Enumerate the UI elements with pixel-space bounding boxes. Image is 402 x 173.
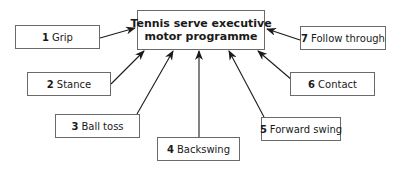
step-number: 4 [167, 144, 174, 155]
arrow-contact [258, 51, 292, 80]
step-label: Forward swing [270, 124, 342, 135]
step-contact: 6 Contact [290, 72, 375, 96]
central-title-line2: motor programme [144, 30, 257, 43]
step-number: 1 [42, 32, 49, 43]
arrow-forward-swing [229, 51, 264, 117]
step-grip: 1 Grip [15, 25, 100, 49]
step-label: Backswing [177, 144, 230, 155]
step-number: 3 [71, 121, 78, 132]
central-node: Tennis serve executive motor programme [137, 10, 265, 50]
central-title-line1: Tennis serve executive [130, 17, 271, 30]
step-number: 2 [47, 79, 54, 90]
arrow-stance [111, 51, 144, 84]
step-backswing: 4 Backswing [157, 137, 240, 161]
step-label: Ball toss [81, 121, 123, 132]
step-forward-swing: 5 Forward swing [261, 117, 341, 141]
step-number: 6 [308, 79, 315, 90]
step-stance: 2 Stance [27, 72, 111, 96]
step-number: 5 [260, 124, 267, 135]
step-number: 7 [301, 33, 308, 44]
step-label: Follow through [311, 33, 385, 44]
step-label: Contact [318, 79, 357, 90]
arrow-ball-toss [137, 51, 173, 114]
step-label: Stance [57, 79, 91, 90]
step-label: Grip [52, 32, 73, 43]
arrow-follow-through [267, 29, 300, 40]
step-ball-toss: 3 Ball toss [55, 114, 140, 138]
step-follow-through: 7 Follow through [300, 26, 386, 50]
